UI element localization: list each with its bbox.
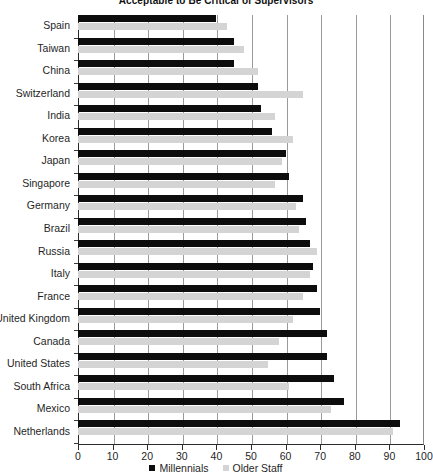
y-axis-label: Spain [43, 20, 70, 31]
bar-millennials [78, 398, 344, 405]
x-axis-label: 70 [314, 450, 326, 462]
bar-millennials [78, 285, 317, 292]
bar-older-staff [78, 248, 317, 255]
y-axis-label: India [47, 110, 70, 121]
table-row [78, 330, 424, 353]
y-axis-labels: SpainTaiwanChinaSwitzerlandIndiaKoreaJap… [0, 15, 78, 443]
bar-older-staff [78, 68, 258, 75]
table-row [78, 105, 424, 128]
x-axis-label: 100 [415, 450, 433, 462]
y-axis-label: France [37, 291, 70, 302]
table-row [78, 173, 424, 196]
table-row [78, 353, 424, 376]
table-row [78, 240, 424, 263]
y-axis-label: South Africa [13, 381, 70, 392]
bar-millennials [78, 353, 327, 360]
bar-rows [78, 15, 424, 443]
y-axis-label: United Kingdom [0, 313, 70, 324]
y-axis-tick [74, 443, 78, 444]
x-axis-label: 10 [107, 450, 119, 462]
bar-older-staff [78, 136, 293, 143]
table-row [78, 375, 424, 398]
bar-older-staff [78, 428, 393, 435]
bar-older-staff [78, 91, 303, 98]
y-axis-label: Japan [41, 155, 70, 166]
y-axis-label: Singapore [22, 178, 70, 189]
legend-swatch-icon [223, 465, 229, 471]
bar-millennials [78, 308, 320, 315]
bar-millennials [78, 240, 310, 247]
bar-older-staff [78, 406, 331, 413]
y-axis-label: Taiwan [37, 43, 70, 54]
bar-millennials [78, 263, 313, 270]
bar-older-staff [78, 293, 303, 300]
bar-older-staff [78, 338, 279, 345]
legend-swatch-icon [149, 465, 155, 471]
table-row [78, 83, 424, 106]
table-row [78, 420, 424, 443]
bar-older-staff [78, 46, 244, 53]
bar-millennials [78, 330, 327, 337]
table-row [78, 150, 424, 173]
y-axis-label: Russia [38, 246, 70, 257]
y-axis-label: Germany [27, 200, 70, 211]
bar-millennials [78, 218, 306, 225]
legend-item: Older Staff [223, 462, 283, 474]
chart-title: Acceptable to Be Critical of Supervisors [0, 0, 432, 7]
bar-millennials [78, 128, 272, 135]
table-row [78, 263, 424, 286]
bar-millennials [78, 15, 216, 22]
x-axis-label: 40 [211, 450, 223, 462]
bar-older-staff [78, 158, 282, 165]
y-axis-label: Switzerland [16, 88, 70, 99]
bar-older-staff [78, 316, 293, 323]
bar-millennials [78, 173, 289, 180]
table-row [78, 308, 424, 331]
bar-older-staff [78, 383, 289, 390]
y-axis-label: Brazil [44, 223, 70, 234]
legend-label: Millennials [159, 462, 208, 474]
bar-millennials [78, 420, 400, 427]
bar-older-staff [78, 203, 296, 210]
bar-millennials [78, 375, 334, 382]
y-axis-label: Netherlands [13, 426, 70, 437]
x-axis-label: 50 [245, 450, 257, 462]
x-axis-label: 60 [280, 450, 292, 462]
table-row [78, 195, 424, 218]
bar-older-staff [78, 181, 275, 188]
table-row [78, 15, 424, 38]
bar-millennials [78, 38, 234, 45]
x-axis-label: 80 [349, 450, 361, 462]
x-axis-label: 90 [384, 450, 396, 462]
table-row [78, 218, 424, 241]
bar-older-staff [78, 23, 227, 30]
bar-millennials [78, 150, 286, 157]
x-axis-label: 0 [75, 450, 81, 462]
table-row [78, 398, 424, 421]
legend-label: Older Staff [233, 462, 283, 474]
bar-older-staff [78, 113, 275, 120]
chart-legend: MillennialsOlder Staff [0, 462, 432, 474]
y-axis-label: Canada [33, 336, 70, 347]
y-axis-label: China [43, 65, 70, 76]
table-row [78, 285, 424, 308]
table-row [78, 60, 424, 83]
bar-millennials [78, 60, 234, 67]
bar-older-staff [78, 361, 268, 368]
bar-older-staff [78, 271, 310, 278]
x-axis-label: 30 [176, 450, 188, 462]
y-axis-label: Italy [51, 268, 70, 279]
y-axis-label: Korea [42, 133, 70, 144]
table-row [78, 128, 424, 151]
bar-millennials [78, 195, 303, 202]
x-axis-label: 20 [141, 450, 153, 462]
y-axis-label: Mexico [37, 403, 70, 414]
table-row [78, 38, 424, 61]
bar-older-staff [78, 226, 299, 233]
bar-millennials [78, 105, 261, 112]
legend-item: Millennials [149, 462, 208, 474]
bar-millennials [78, 83, 258, 90]
y-axis-label: United States [7, 358, 70, 369]
